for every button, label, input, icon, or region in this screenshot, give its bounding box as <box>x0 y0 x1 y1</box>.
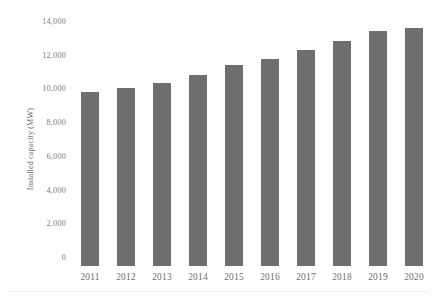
bar-group: 2018 <box>324 18 360 266</box>
y-axis-tick-label: 6,000 <box>47 151 66 160</box>
bar-group: 2013 <box>144 18 180 266</box>
x-axis-tick-label: 2012 <box>116 272 136 282</box>
bar-group: 2014 <box>180 18 216 266</box>
bar <box>189 75 207 266</box>
x-axis-tick-label: 2015 <box>224 272 244 282</box>
bar-group: 2017 <box>288 18 324 266</box>
bar <box>333 41 351 266</box>
x-axis-tick-label: 2017 <box>296 272 316 282</box>
bar <box>81 92 99 266</box>
scan-artifact-line <box>8 291 429 292</box>
bar <box>405 28 423 266</box>
y-axis-tick-label: 2,000 <box>47 219 66 228</box>
bar-chart: Installed capacity (MW) 02,0004,0006,000… <box>0 0 439 299</box>
bar-group: 2019 <box>360 18 396 266</box>
bar <box>153 83 171 266</box>
x-axis-tick-label: 2016 <box>260 272 280 282</box>
x-axis-tick-label: 2020 <box>404 272 424 282</box>
y-axis-tick-label: 14,000 <box>42 16 66 25</box>
bar-group: 2015 <box>216 18 252 266</box>
x-axis-tick-label: 2011 <box>80 272 99 282</box>
y-axis-tick-label: 12,000 <box>42 50 66 59</box>
bar <box>297 50 315 266</box>
bar-group: 2020 <box>396 18 432 266</box>
y-axis-tick-label: 4,000 <box>47 185 66 194</box>
bar <box>117 88 135 266</box>
y-axis-title: Installed capacity (MW) <box>26 0 35 96</box>
bar <box>261 59 279 266</box>
y-axis-tick-label: 10,000 <box>42 84 66 93</box>
y-axis-tick-label: 0 <box>62 253 66 262</box>
plot-area: 02,0004,0006,0008,00010,00012,00014,000 … <box>72 18 432 266</box>
y-axis-tick-label: 8,000 <box>47 118 66 127</box>
x-axis-tick-label: 2013 <box>152 272 172 282</box>
x-axis-tick-label: 2018 <box>332 272 352 282</box>
x-axis-tick-label: 2014 <box>188 272 208 282</box>
bar-group: 2012 <box>108 18 144 266</box>
bar-group: 2016 <box>252 18 288 266</box>
bar <box>369 31 387 266</box>
bar <box>225 65 243 266</box>
bar-series: 2011201220132014201520162017201820192020 <box>72 18 432 266</box>
bar-group: 2011 <box>72 18 108 266</box>
y-axis-title-label: Installed capacity (MW) <box>26 84 35 214</box>
x-axis-tick-label: 2019 <box>368 272 388 282</box>
